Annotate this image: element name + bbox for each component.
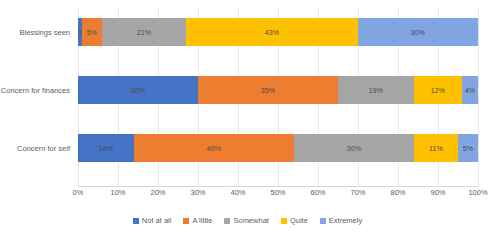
legend-swatch-icon — [320, 218, 326, 224]
bar-segment-label: 11% — [429, 145, 443, 152]
bar-segment: 43% — [186, 18, 358, 46]
category-label-text: Blessings seen — [20, 28, 70, 37]
bar-segment: 11% — [414, 134, 458, 162]
x-axis-tick-label: 30% — [190, 188, 205, 197]
category-label-concern-for-finances: Concern for finances — [1, 76, 70, 104]
bar-segment-label: 30% — [347, 145, 361, 152]
legend-item[interactable]: Not at all — [133, 216, 172, 225]
bar-segment: 30% — [78, 76, 198, 104]
legend-item-label: Somewhat — [233, 216, 268, 225]
bar-segment: 14% — [78, 134, 134, 162]
x-axis-tick-label: 90% — [430, 188, 445, 197]
bar-segment: 30% — [358, 18, 478, 46]
chart-legend: Not at allA littleSomewhatQuiteExtremely — [0, 216, 495, 225]
legend-item-label: Quite — [290, 216, 308, 225]
bar-segment-label: 43% — [265, 29, 279, 36]
legend-swatch-icon — [183, 218, 189, 224]
x-axis-tick-label: 80% — [390, 188, 405, 197]
category-label-text: Concern for self — [17, 144, 70, 153]
bar-segment: 21% — [102, 18, 186, 46]
legend-swatch-icon — [281, 218, 287, 224]
category-label-blessings-seen: Blessings seen — [20, 18, 70, 46]
bar-segment: 12% — [414, 76, 462, 104]
category-axis-labels: Blessings seen Concern for finances Conc… — [0, 8, 74, 186]
legend-item-label: Extremely — [329, 216, 362, 225]
plot-area: 1%5%21%43%30%30%35%19%12%4%14%40%30%11%5… — [78, 8, 478, 186]
legend-swatch-icon — [224, 218, 230, 224]
x-axis-tick-label: 20% — [150, 188, 165, 197]
bar-segment: 4% — [462, 76, 478, 104]
x-axis-tick-label: 40% — [230, 188, 245, 197]
bar-segment-label: 14% — [99, 145, 113, 152]
bar-segment-label: 30% — [131, 87, 145, 94]
bar-segment-label: 40% — [207, 145, 221, 152]
gridline — [478, 8, 479, 186]
bar-segment: 19% — [338, 76, 414, 104]
legend-item[interactable]: A little — [183, 216, 212, 225]
bar-segment-label: 4% — [465, 87, 475, 94]
x-axis-tick-label: 60% — [310, 188, 325, 197]
bar-segment-label: 30% — [411, 29, 425, 36]
x-axis-tick-label: 70% — [350, 188, 365, 197]
bar-segment-label: 5% — [463, 145, 473, 152]
legend-swatch-icon — [133, 218, 139, 224]
legend-item[interactable]: Quite — [281, 216, 308, 225]
bar-segment-label: 35% — [261, 87, 275, 94]
bar-row: 1%5%21%43%30% — [78, 18, 478, 46]
legend-item-label: A little — [192, 216, 212, 225]
bar-segment: 40% — [134, 134, 294, 162]
bar-segment-label: 5% — [87, 29, 97, 36]
bar-rows: 1%5%21%43%30%30%35%19%12%4%14%40%30%11%5… — [78, 8, 478, 186]
x-axis-tick-label: 0% — [73, 188, 84, 197]
x-axis-ticks: 0%10%20%30%40%50%60%70%80%90%100% — [78, 188, 478, 202]
stacked-bar-chart: Blessings seen Concern for finances Conc… — [0, 0, 495, 239]
bar-segment-label: 19% — [369, 87, 383, 94]
x-axis-tick-label: 100% — [468, 188, 487, 197]
x-axis-line — [78, 186, 478, 187]
bar-segment-label: 12% — [431, 87, 445, 94]
bar-segment: 35% — [198, 76, 338, 104]
bar-row: 14%40%30%11%5% — [78, 134, 478, 162]
bar-segment: 5% — [458, 134, 478, 162]
legend-item[interactable]: Extremely — [320, 216, 362, 225]
legend-item[interactable]: Somewhat — [224, 216, 268, 225]
category-label-concern-for-self: Concern for self — [17, 134, 70, 162]
bar-segment-label: 21% — [137, 29, 151, 36]
legend-item-label: Not at all — [142, 216, 172, 225]
bar-segment: 5% — [82, 18, 102, 46]
x-axis-tick-label: 50% — [270, 188, 285, 197]
category-label-text: Concern for finances — [1, 86, 70, 95]
bar-row: 30%35%19%12%4% — [78, 76, 478, 104]
x-axis-tick-label: 10% — [110, 188, 125, 197]
bar-segment: 30% — [294, 134, 414, 162]
